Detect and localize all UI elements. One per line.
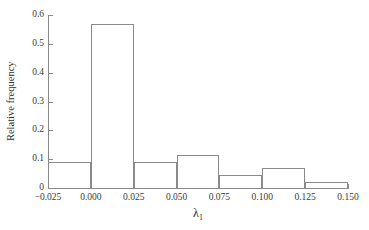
y-tick-mark <box>49 159 53 160</box>
x-tick-label: 0.075 <box>209 193 230 203</box>
y-tick-mark <box>49 130 53 131</box>
x-tick-label: 0.100 <box>252 193 273 203</box>
histogram-bar <box>48 162 91 188</box>
y-tick-label: 0.3 <box>32 97 44 107</box>
x-axis-line <box>48 188 349 189</box>
x-axis-title-subscript: 1 <box>199 213 203 222</box>
x-tick-label: 0.000 <box>80 193 101 203</box>
x-axis-title: λ1 <box>48 207 348 222</box>
y-tick-label: 0.4 <box>32 68 44 78</box>
x-tick-mark <box>348 184 349 188</box>
y-tick-mark <box>49 102 53 103</box>
x-tick-label: 0.125 <box>294 193 315 203</box>
histogram-bar <box>305 182 348 188</box>
x-tick-label: −0.025 <box>35 193 62 203</box>
histogram-bar <box>91 24 134 188</box>
histogram-bar <box>134 162 177 188</box>
y-tick-mark <box>49 44 53 45</box>
y-tick-label: 0.1 <box>32 154 44 164</box>
plot-area: 00.10.20.30.40.50.6 −0.0250.0000.0250.05… <box>48 15 348 188</box>
histogram-bar <box>262 168 305 188</box>
y-axis-title-text: Relative frequency <box>6 62 17 142</box>
x-tick-label: 0.150 <box>337 193 358 203</box>
histogram-figure: Relative frequency 00.10.20.30.40.50.6 −… <box>0 0 369 230</box>
y-axis-title: Relative frequency <box>4 15 18 188</box>
y-tick-mark <box>49 15 53 16</box>
y-tick-label: 0.6 <box>32 10 44 20</box>
y-tick-mark <box>49 188 53 189</box>
histogram-bar <box>219 175 262 188</box>
y-tick-mark <box>49 73 53 74</box>
y-tick-label: 0.2 <box>32 126 44 136</box>
histogram-bar <box>177 155 220 188</box>
x-tick-label: 0.025 <box>123 193 144 203</box>
y-tick-label: 0.5 <box>32 39 44 49</box>
x-tick-label: 0.050 <box>166 193 187 203</box>
